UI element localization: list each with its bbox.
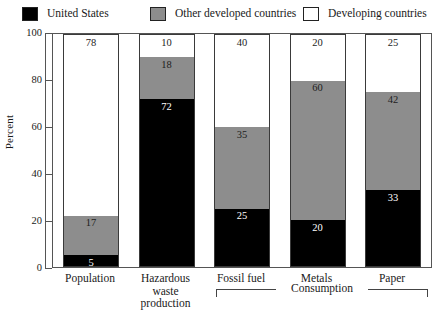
bracket-tick-left: [216, 289, 217, 297]
legend-label-united-states: United States: [47, 8, 109, 20]
segment-value-label: 17: [86, 218, 97, 229]
segment-value-label: 40: [237, 38, 248, 49]
segment-value-label: 60: [312, 83, 323, 94]
bar-segment-us: 20: [290, 220, 346, 267]
segment-value-label: 10: [161, 38, 172, 49]
bar-segment-us: 72: [139, 99, 195, 267]
y-tick-label-60: 60: [20, 122, 42, 133]
segment-value-label: 5: [88, 258, 93, 269]
bar-segment-other: 35: [214, 127, 270, 209]
bar-segment-dev: 40: [214, 34, 270, 127]
segment-value-label: 78: [86, 38, 97, 49]
legend-item-united-states: United States: [22, 5, 109, 23]
legend-swatch-other-developed-countries: [150, 7, 166, 21]
legend-swatch-developing-countries: [303, 7, 319, 21]
bar-segment-us: 33: [365, 190, 421, 267]
bracket-tick-right: [427, 289, 428, 297]
y-tick-40: [45, 174, 52, 175]
bracket-line-right: [368, 289, 428, 290]
bar-segment-other: 17: [63, 216, 119, 256]
bar-fossil-fuel: 403525: [214, 34, 270, 267]
bar-population: 78175: [63, 34, 119, 267]
bar-segment-dev: 20: [290, 34, 346, 81]
consumption-bracket: Consumption: [216, 289, 428, 301]
legend-label-other-developed-countries: Other developed countries: [175, 8, 296, 20]
stacked-bar-chart: United States Other developed countries …: [0, 0, 448, 316]
segment-value-label: 33: [388, 193, 399, 204]
bar-segment-us: 25: [214, 209, 270, 267]
segment-value-label: 20: [312, 223, 323, 234]
bar-hazardous-waste-production: 101872: [139, 34, 195, 267]
bar-segment-dev: 10: [139, 34, 195, 57]
bar-segment-dev: 25: [365, 34, 421, 92]
y-tick-label-100: 100: [20, 28, 42, 39]
y-tick-60: [45, 127, 52, 128]
y-tick-80: [45, 80, 52, 81]
segment-value-label: 25: [388, 38, 399, 49]
plot-area: 78175101872403525206020254233: [52, 33, 432, 268]
y-axis-title: Percent: [3, 97, 15, 167]
y-tick-label-20: 20: [20, 216, 42, 227]
y-axis-line: [45, 33, 46, 269]
segment-value-label: 42: [388, 95, 399, 106]
legend-label-developing-countries: Developing countries: [328, 8, 427, 20]
legend-swatch-united-states: [22, 7, 38, 21]
y-tick-20: [45, 221, 52, 222]
segment-value-label: 72: [161, 102, 172, 113]
x-label-paper: Paper: [344, 272, 440, 285]
y-tick-100: [45, 33, 52, 34]
chart-legend: United States Other developed countries …: [0, 4, 448, 26]
bar-segment-dev: 78: [63, 34, 119, 216]
bar-segment-other: 42: [365, 92, 421, 190]
segment-value-label: 25: [237, 211, 248, 222]
segment-value-label: 20: [312, 38, 323, 49]
bar-metals: 206020: [290, 34, 346, 267]
x-label-line: Paper: [344, 272, 440, 285]
segment-value-label: 35: [237, 130, 248, 141]
bracket-line-left: [216, 289, 276, 290]
x-label-line: waste: [118, 285, 214, 298]
y-tick-label-40: 40: [20, 169, 42, 180]
x-label-line: production: [118, 297, 214, 310]
bar-segment-other: 18: [139, 57, 195, 99]
y-tick-0: [45, 268, 52, 269]
bar-paper: 254233: [365, 34, 421, 267]
bar-segment-us: 5: [63, 255, 119, 267]
legend-item-developing-countries: Developing countries: [303, 5, 427, 23]
bar-segment-other: 60: [290, 81, 346, 221]
bracket-label: Consumption: [287, 282, 357, 295]
y-tick-label-0: 0: [20, 263, 42, 274]
y-tick-label-80: 80: [20, 75, 42, 86]
legend-item-other-developed-countries: Other developed countries: [150, 5, 296, 23]
segment-value-label: 18: [161, 60, 172, 71]
